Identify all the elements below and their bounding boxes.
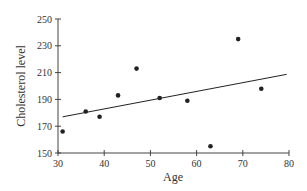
x-tick-label: 60 [192,158,202,169]
x-tick-label: 80 [284,158,294,169]
y-tick-label: 150 [37,148,52,159]
x-axis-label: Age [163,170,183,184]
y-tick-label: 250 [37,14,52,25]
x-tick-label: 70 [238,158,248,169]
y-tick-label: 170 [37,121,52,132]
data-point [157,96,162,101]
x-axis: 304050607080 [53,150,294,169]
data-points [60,37,263,149]
y-tick-label: 190 [37,94,52,105]
data-point [83,109,88,114]
x-tick-label: 50 [145,158,155,169]
y-tick-label: 210 [37,67,52,78]
y-axis: 150170190210230250 [37,14,61,159]
data-point [185,98,190,103]
y-axis-label: Cholesterol level [14,45,28,127]
data-point [97,115,102,120]
data-point [116,93,121,98]
data-point [236,37,241,42]
data-point [134,66,139,71]
data-point [60,129,65,134]
data-point [259,86,264,91]
scatter-chart: 150170190210230250 304050607080 Age Chol… [0,0,307,191]
regression-line [63,74,287,116]
x-tick-label: 30 [53,158,63,169]
data-point [208,144,213,149]
y-tick-label: 230 [37,40,52,51]
x-tick-label: 40 [99,158,109,169]
